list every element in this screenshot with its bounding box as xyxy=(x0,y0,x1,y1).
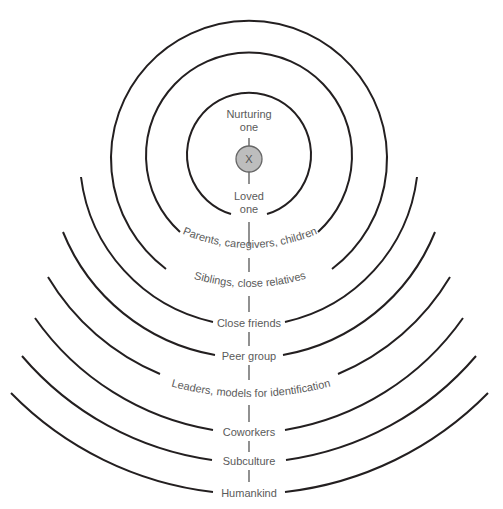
arc-coworkers-right xyxy=(285,318,463,430)
label-loved-line1: Loved xyxy=(234,190,264,202)
label-parents: Parents, caregivers, children xyxy=(181,224,318,250)
arc-peer-group-left xyxy=(63,232,215,355)
label-nurturing-line1: Nurturing xyxy=(226,108,271,120)
label-nurturing-line2: one xyxy=(240,121,258,133)
label-peer-group: Peer group xyxy=(222,350,276,362)
arc-subculture-right xyxy=(286,356,476,460)
label-coworkers: Coworkers xyxy=(223,426,276,438)
arc-subculture-left xyxy=(22,356,212,460)
arc-leaders-right xyxy=(338,277,450,374)
concentric-social-diagram: X Nurturing one Loved one Parents, careg… xyxy=(0,0,503,509)
arc-peer-group-right xyxy=(283,232,435,355)
label-subculture: Subculture xyxy=(223,455,276,467)
label-humankind: Humankind xyxy=(221,487,277,499)
label-loved-line2: one xyxy=(240,203,258,215)
center-node-label: X xyxy=(245,153,253,165)
arc-humankind-right xyxy=(285,393,488,492)
arc-humankind-left xyxy=(11,393,213,492)
label-close-friends: Close friends xyxy=(217,317,282,329)
label-siblings: Siblings, close relatives xyxy=(193,269,307,289)
arc-leaders-left xyxy=(48,277,160,374)
arc-close-friends-left xyxy=(81,177,213,322)
label-leaders: Leaders, models for identification xyxy=(171,377,332,399)
arc-coworkers-left xyxy=(35,318,213,430)
arc-close-friends-right xyxy=(285,177,417,322)
